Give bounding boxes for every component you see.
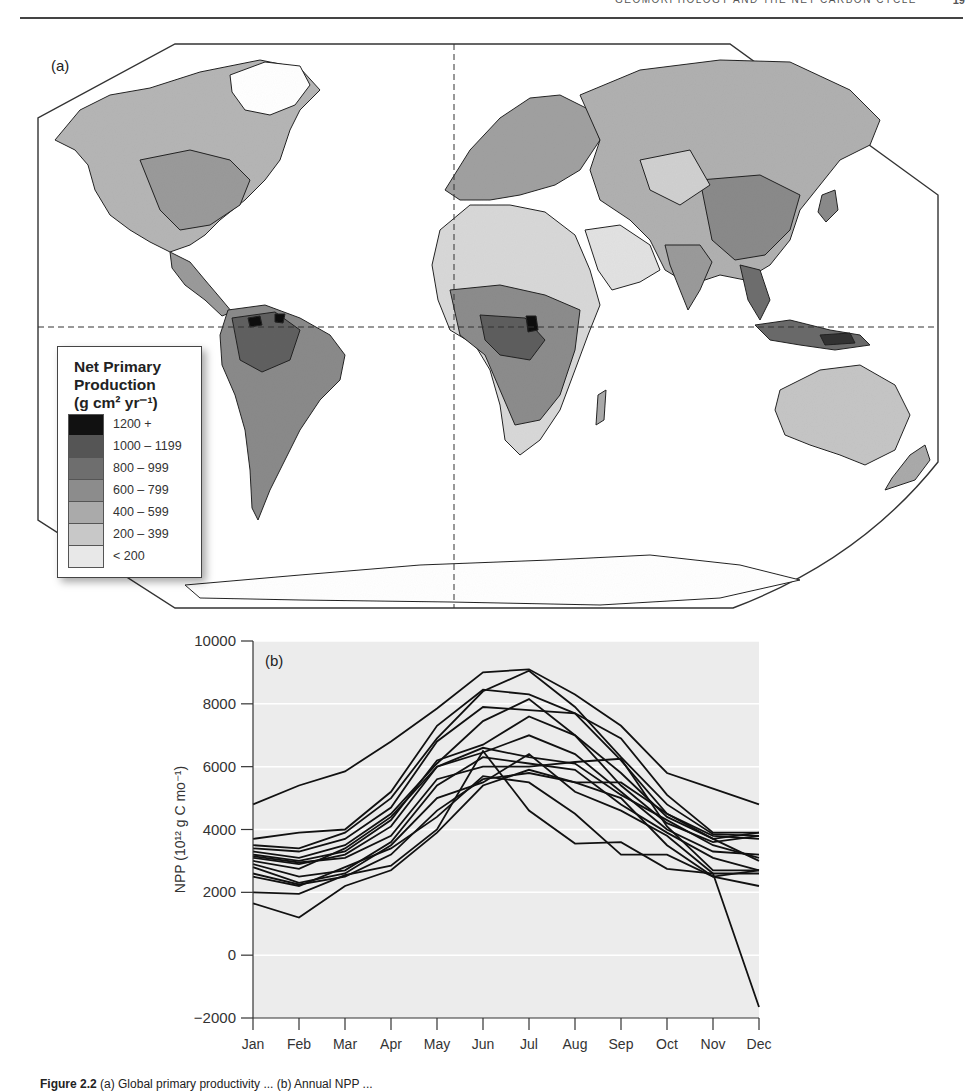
y-tick-label: 0 (228, 946, 236, 963)
x-tick-label: May (424, 1036, 450, 1052)
caption-text: (a) Global primary productivity ... (b) … (100, 1077, 373, 1091)
x-tick-label: Jul (520, 1036, 538, 1052)
caption-prefix: Figure 2.2 (40, 1077, 97, 1091)
y-tick-label: 8000 (203, 695, 236, 712)
x-tick-label: Jun (472, 1036, 495, 1052)
figure-caption: Figure 2.2 (a) Global primary productivi… (40, 1077, 373, 1091)
x-tick-label: Mar (333, 1036, 357, 1052)
y-axis-label: NPP (10¹² g C mo⁻¹) (172, 766, 188, 893)
y-tick-label: 6000 (203, 758, 236, 775)
y-tick-label: 10000 (194, 632, 236, 649)
x-tick-label: Dec (747, 1036, 772, 1052)
x-tick-label: Jan (242, 1036, 265, 1052)
y-tick-label: 2000 (203, 883, 236, 900)
x-tick-label: Feb (287, 1036, 311, 1052)
y-tick-label: 4000 (203, 821, 236, 838)
x-tick-label: Oct (656, 1036, 678, 1052)
x-tick-label: Sep (609, 1036, 634, 1052)
x-tick-label: Nov (701, 1036, 726, 1052)
panel-b-label: (b) (265, 652, 283, 669)
x-tick-label: Aug (563, 1036, 588, 1052)
x-tick-label: Apr (380, 1036, 402, 1052)
y-tick-label: −2000 (194, 1009, 236, 1026)
